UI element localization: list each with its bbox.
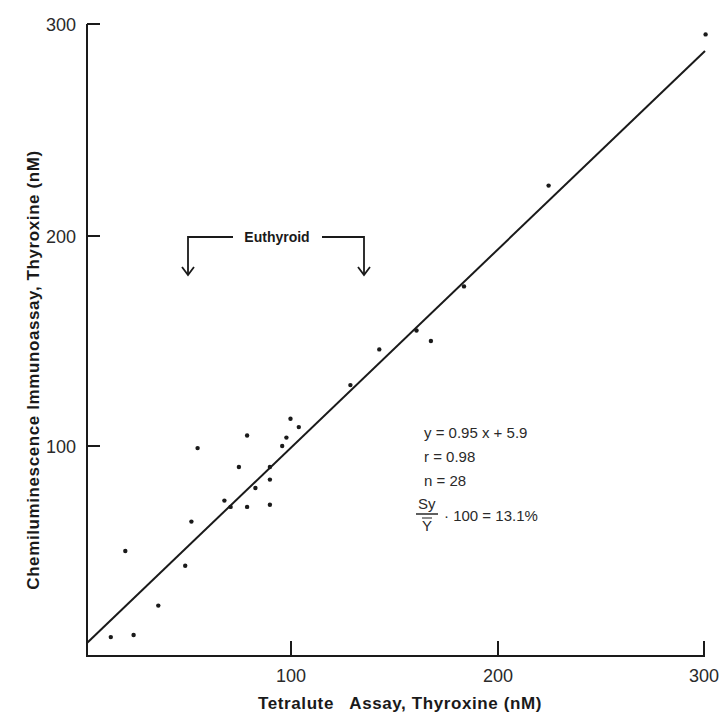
axes bbox=[86, 24, 705, 656]
x-tick-label-100: 100 bbox=[276, 666, 306, 686]
regression-line bbox=[87, 51, 705, 643]
y-tick-label-200: 200 bbox=[46, 227, 76, 247]
stats-annotation: y = 0.95 x + 5.9 r = 0.98 n = 28 Sy Y · … bbox=[416, 424, 538, 534]
data-point bbox=[268, 477, 272, 481]
data-point bbox=[284, 435, 288, 439]
data-point bbox=[131, 633, 135, 637]
x-tick-label-200: 200 bbox=[483, 666, 513, 686]
x-axis-title: Tetralute Assay, Thyroxine (nM) bbox=[258, 694, 542, 713]
data-point bbox=[109, 635, 113, 639]
correlation-r: r = 0.98 bbox=[424, 448, 475, 465]
data-point bbox=[253, 486, 257, 490]
data-point bbox=[546, 183, 550, 187]
data-point bbox=[123, 549, 127, 553]
euthyroid-label: Euthyroid bbox=[244, 229, 309, 245]
data-point bbox=[228, 505, 232, 509]
data-point bbox=[703, 32, 707, 36]
data-point bbox=[348, 383, 352, 387]
cv-denominator: Y bbox=[422, 517, 432, 534]
data-point bbox=[280, 444, 284, 448]
data-point bbox=[245, 505, 249, 509]
data-point bbox=[429, 339, 433, 343]
data-point bbox=[189, 519, 193, 523]
data-point bbox=[268, 465, 272, 469]
cv-result: · 100 = 13.1% bbox=[444, 507, 538, 524]
cv-numerator: Sy bbox=[418, 495, 436, 512]
data-point bbox=[245, 433, 249, 437]
y-tick-label-300: 300 bbox=[46, 15, 76, 35]
data-point bbox=[237, 465, 241, 469]
data-point bbox=[183, 564, 187, 568]
bracket-left bbox=[188, 237, 233, 274]
bracket-right bbox=[322, 237, 364, 274]
data-point bbox=[268, 503, 272, 507]
data-point bbox=[377, 347, 381, 351]
regression-equation: y = 0.95 x + 5.9 bbox=[424, 424, 527, 441]
data-point bbox=[195, 446, 199, 450]
y-tick-label-100: 100 bbox=[46, 437, 76, 457]
data-point bbox=[222, 498, 226, 502]
data-point bbox=[462, 284, 466, 288]
data-point bbox=[414, 328, 418, 332]
x-tick-label-300: 300 bbox=[689, 666, 719, 686]
y-axis-title: Chemiluminescence Immunoassay, Thyroxine… bbox=[24, 150, 43, 590]
sample-size-n: n = 28 bbox=[424, 472, 466, 489]
data-point bbox=[156, 603, 160, 607]
scatter-chart: 300 200 100 100 200 300 Tetralute Assay,… bbox=[0, 0, 728, 717]
data-point bbox=[288, 417, 292, 421]
data-point bbox=[297, 425, 301, 429]
